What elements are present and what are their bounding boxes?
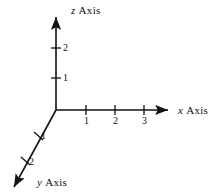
- y-axis-tick-label: 2: [29, 156, 34, 167]
- y-axis-label: yAxis: [37, 176, 67, 188]
- y-axis-variable: y: [37, 176, 45, 188]
- z-axis-label-suffix: Axis: [79, 4, 101, 16]
- y-axis-label-suffix: Axis: [45, 176, 67, 188]
- x-axis-tick-label: 2: [113, 115, 118, 126]
- z-axis-tick-label: 2: [63, 42, 68, 53]
- z-axis-tick-label: 1: [63, 72, 68, 83]
- z-axis-variable: z: [71, 4, 79, 16]
- x-axis-label: xAxis: [178, 104, 208, 116]
- x-axis-variable: x: [178, 104, 186, 116]
- coordinate-axes-figure: zAxis xAxis yAxis 1 2 3 1 2 1 2: [0, 0, 211, 196]
- y-axis-tick-label: 1: [41, 130, 46, 141]
- z-axis-label: zAxis: [71, 4, 101, 16]
- x-axis-tick-label: 1: [84, 115, 89, 126]
- x-axis-tick-label: 3: [142, 115, 147, 126]
- x-axis-label-suffix: Axis: [186, 104, 208, 116]
